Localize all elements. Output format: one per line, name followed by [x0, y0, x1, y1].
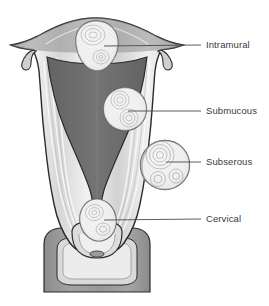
label-intramural: Intramural — [206, 40, 250, 50]
label-submucous: Submucous — [206, 106, 257, 116]
fibroid-diagram: Intramural Submucous Subserous Cervical — [0, 0, 269, 306]
label-subserous: Subserous — [206, 157, 252, 167]
fibroid-submucous — [104, 88, 147, 131]
label-cervical: Cervical — [206, 214, 241, 224]
fibroid-subserous — [141, 141, 190, 190]
